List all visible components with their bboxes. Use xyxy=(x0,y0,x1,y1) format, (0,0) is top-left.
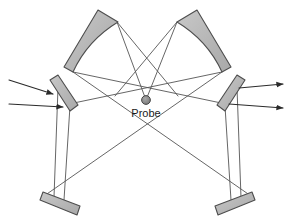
flat-mirror-mid-right xyxy=(217,75,245,111)
output-ray-upper xyxy=(239,84,283,88)
flat-mirror-bottom-left xyxy=(40,192,80,215)
concave-mirror-right xyxy=(177,10,231,72)
flat-mirror-bottom-right xyxy=(215,192,255,215)
beam-right-top-cross-left xyxy=(115,22,177,96)
beam-midleft-down-b xyxy=(64,106,70,200)
optics-canvas: Probe xyxy=(0,0,295,219)
beam-left-top-cross-right xyxy=(117,22,178,96)
flat-mirror-mid-left xyxy=(50,75,78,111)
probe-group: Probe xyxy=(131,96,160,119)
optical-diagram: Probe xyxy=(0,0,295,219)
beam-midright-down-b xyxy=(225,106,231,200)
beam-midleft-down-a xyxy=(54,88,58,197)
input-ray-upper xyxy=(9,80,53,94)
probe-sphere xyxy=(142,96,151,105)
probe-label: Probe xyxy=(131,107,160,119)
concave-mirror-left xyxy=(64,10,118,72)
input-ray-lower xyxy=(9,104,63,107)
output-ray-lower xyxy=(229,104,283,108)
